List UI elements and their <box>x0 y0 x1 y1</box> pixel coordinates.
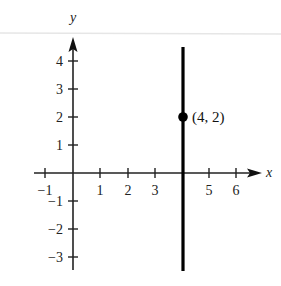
x-tick-labels: −1 1 2 3 5 6 <box>38 183 240 198</box>
y-tick-label: 3 <box>56 82 63 97</box>
x-tick-label: 1 <box>97 183 104 198</box>
y-tick-label: 4 <box>56 54 63 69</box>
x-tick-label: 5 <box>206 183 213 198</box>
coordinate-plane: x y −1 1 2 3 5 6 4 3 2 1 −1 −2 <box>0 0 281 286</box>
point-4-2 <box>178 112 188 122</box>
x-tick-label: 3 <box>152 183 159 198</box>
y-tick-label: −1 <box>48 194 63 209</box>
scan-artifact-line <box>0 33 281 34</box>
x-tick-label: 2 <box>125 183 132 198</box>
y-tick-labels: 4 3 2 1 −1 −2 −3 <box>48 54 63 265</box>
y-tick-label: −2 <box>48 222 63 237</box>
y-tick-label: 2 <box>56 110 63 125</box>
y-tick-label: −3 <box>48 250 63 265</box>
x-axis-label: x <box>265 165 273 180</box>
x-tick-label: 6 <box>233 183 240 198</box>
y-axis: y <box>68 10 78 270</box>
x-axis: x <box>34 165 273 180</box>
point-label: (4, 2) <box>192 109 225 126</box>
y-tick-label: 1 <box>56 138 63 153</box>
y-axis-label: y <box>68 10 77 25</box>
